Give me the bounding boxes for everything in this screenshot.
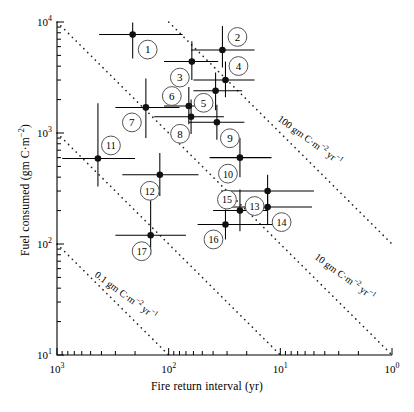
point-callout-label-2: 2 [235,31,241,43]
data-point-marker[interactable] [237,207,244,214]
data-point-marker[interactable] [147,232,154,239]
point-callout-label-13: 13 [250,201,260,212]
data-point-marker[interactable] [264,188,271,195]
point-callout-label-11: 11 [106,140,116,151]
data-point-marker[interactable] [222,77,229,84]
isopleth-line-100 [169,22,392,244]
point-callout-label-6: 6 [169,90,175,102]
scatter-plot-canvas: 1234567891011121314151617 [0,0,414,412]
data-point-marker[interactable] [264,204,271,211]
point-callout-label-14: 14 [277,217,287,228]
data-point-marker[interactable] [188,113,195,120]
point-callout-label-17: 17 [137,246,147,257]
y-tick-label-1000: 103 [22,125,52,139]
y-axis-title: Fuel consumed (gm C·m−2) [17,80,31,300]
data-point-marker[interactable] [157,172,164,179]
point-callout-label-10: 10 [223,169,233,180]
data-point-marker[interactable] [129,31,136,38]
x-tick-label-10: 101 [266,361,294,375]
point-callout-label-5: 5 [201,97,207,109]
y-tick-label-10000: 104 [22,14,52,28]
x-axis-title: Fire return interval (yr) [0,380,414,392]
data-point-marker[interactable] [214,119,221,126]
x-tick-label-1000: 103 [43,361,71,375]
data-point-marker[interactable] [186,103,193,110]
x-tick-label-1: 100 [378,361,406,375]
point-callout-label-7: 7 [129,116,135,128]
data-point-marker[interactable] [95,155,102,162]
isopleth-line-0.1 [57,244,169,355]
data-point-marker[interactable] [212,87,219,94]
point-callout-label-8: 8 [177,128,183,140]
point-callout-label-1: 1 [145,43,151,55]
x-tick-label-100: 102 [155,361,183,375]
point-callout-label-12: 12 [145,186,155,197]
isopleth-lines-group [57,22,392,355]
point-callouts-group: 1234567891011121314151617 [102,28,291,261]
point-callout-label-16: 16 [208,234,218,245]
y-tick-label-10: 101 [22,347,52,361]
y-tick-label-100: 102 [22,236,52,250]
point-callout-label-9: 9 [227,132,233,144]
point-callout-label-3: 3 [177,71,183,83]
data-point-marker[interactable] [237,154,244,161]
data-point-marker[interactable] [189,58,196,65]
isopleth-line-10 [57,22,392,355]
isopleth-line-1 [57,133,280,355]
data-point-marker[interactable] [222,221,229,228]
data-point-marker[interactable] [143,104,150,111]
data-point-marker[interactable] [219,47,226,54]
figure-container: 1234567891011121314151617 Fire return in… [0,0,414,412]
point-callout-label-4: 4 [236,60,242,72]
point-callout-label-15: 15 [222,194,232,205]
